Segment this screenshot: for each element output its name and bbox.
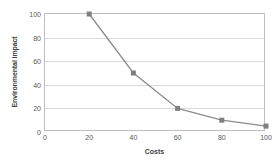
data-point-marker	[87, 12, 92, 17]
y-tick-label-40: 40	[33, 81, 45, 88]
data-point-marker	[219, 118, 224, 123]
y-tick-label-20: 20	[33, 105, 45, 112]
data-series-line	[45, 14, 266, 132]
plot-area: 020406080100 020406080100	[44, 13, 265, 131]
y-tick-label-100: 100	[29, 11, 45, 18]
chart-container: Environmental impact 020406080100 020406…	[0, 0, 279, 166]
y-tick-label-60: 60	[33, 58, 45, 65]
data-point-marker	[175, 106, 180, 111]
y-axis-title: Environmental impact	[8, 13, 22, 131]
data-point-marker	[131, 71, 136, 76]
y-tick-label-80: 80	[33, 34, 45, 41]
x-axis-title: Costs	[44, 148, 265, 155]
data-point-marker	[264, 124, 269, 129]
